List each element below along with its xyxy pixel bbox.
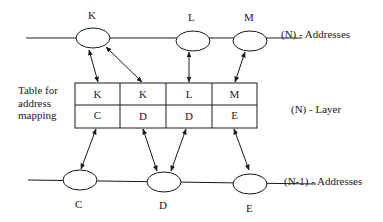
arrow-m-col4 — [235, 52, 245, 82]
cell-top-4: M — [212, 84, 257, 104]
table-caption: Table for address mapping — [18, 84, 78, 122]
arrow-k-col2 — [106, 47, 142, 82]
arrow-col1-c — [81, 129, 96, 169]
node-label-m: M — [244, 11, 254, 23]
cell-bottom-3: D — [166, 106, 212, 126]
node-label-l: L — [188, 11, 195, 23]
node-k-top — [76, 28, 110, 48]
node-label-k: K — [88, 9, 96, 21]
node-label-e: E — [246, 202, 253, 214]
cell-top-2: K — [120, 84, 166, 104]
cell-top-1: K — [75, 84, 120, 104]
arrow-col2-d — [143, 129, 157, 171]
arrow-k-col1 — [89, 50, 98, 82]
cell-bottom-2: D — [120, 106, 166, 126]
node-d-bottom — [147, 172, 181, 192]
node-e-bottom — [233, 174, 267, 194]
bottom-layer-label: (N-1) - Addresses — [284, 175, 362, 187]
cell-bottom-4: E — [212, 105, 257, 125]
arrow-col4-e — [234, 129, 249, 170]
top-layer-label: (N) - Addresses — [281, 28, 350, 40]
node-label-c: C — [75, 198, 82, 210]
node-l-top — [176, 31, 210, 51]
node-label-d: D — [159, 199, 167, 211]
cell-top-3: L — [166, 84, 212, 104]
cell-bottom-1: C — [75, 105, 120, 125]
node-m-top — [233, 31, 267, 51]
node-c-bottom — [63, 170, 97, 190]
middle-layer-label: (N) - Layer — [291, 103, 341, 115]
arrow-col3-d — [171, 129, 186, 171]
